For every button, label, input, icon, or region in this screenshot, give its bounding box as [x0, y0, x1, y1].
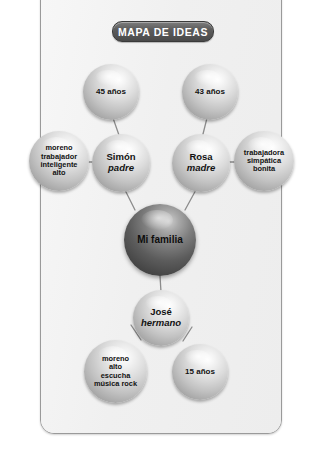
page-title-pill: MAPA DE IDEAS	[112, 21, 214, 42]
node-father-traits[interactable]: moreno trabajador inteligente alto	[29, 131, 89, 191]
node-brother-traits[interactable]: moreno alto escucha música rock	[84, 340, 147, 403]
node-brother-role: hermano	[141, 318, 181, 329]
node-brother[interactable]: José hermano	[133, 290, 189, 346]
node-father[interactable]: Simón padre	[92, 134, 150, 192]
node-age-brother[interactable]: 15 años	[172, 344, 228, 400]
node-age-father[interactable]: 45 años	[83, 64, 139, 120]
node-father-label: Simón padre	[104, 142, 137, 185]
node-mother[interactable]: Rosa madre	[172, 134, 230, 192]
node-father-name: Simón	[106, 151, 135, 162]
node-age-mother[interactable]: 43 años	[182, 64, 238, 120]
node-center-mi-familia[interactable]: Mi familia	[124, 204, 196, 276]
node-brother-traits-label: moreno alto escucha música rock	[92, 355, 139, 388]
node-mother-role: madre	[187, 163, 216, 174]
node-mother-traits-label: trabajadora simpática bonita	[242, 149, 286, 174]
node-age-father-label: 45 años	[94, 88, 128, 97]
node-brother-name: José	[150, 306, 172, 317]
node-mother-name: Rosa	[189, 151, 212, 162]
node-age-mother-label: 43 años	[193, 88, 227, 97]
node-mother-traits[interactable]: trabajadora simpática bonita	[234, 131, 294, 191]
node-father-role: padre	[106, 163, 135, 174]
node-mother-label: Rosa madre	[185, 142, 218, 185]
page-title: MAPA DE IDEAS	[118, 26, 208, 38]
node-father-traits-label: moreno trabajador inteligente alto	[39, 144, 80, 177]
node-center-label: Mi familia	[135, 234, 185, 245]
node-age-brother-label: 15 años	[183, 368, 217, 377]
node-brother-label: José hermano	[139, 297, 183, 340]
